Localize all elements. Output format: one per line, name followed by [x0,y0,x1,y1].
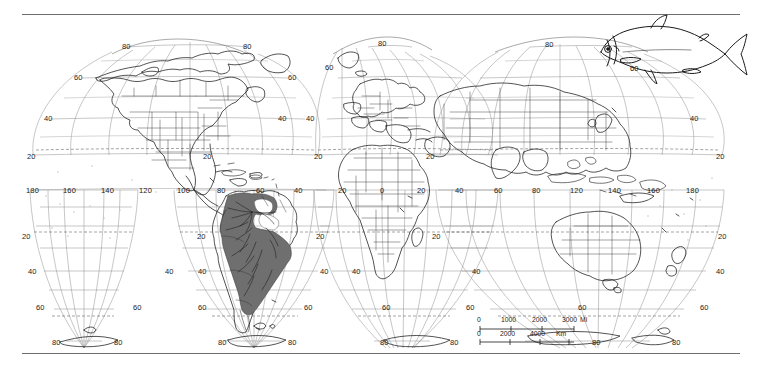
latitude-label: 80 [672,338,681,347]
latitude-label: 80 [592,338,601,347]
latitude-label: 80 [52,338,61,347]
latitude-label: 20 [718,232,727,241]
latitude-label: 80 [378,39,387,48]
latitude-label: 60 [630,64,639,73]
latitude-label: 80 [114,338,123,347]
longitude-label: 20 [417,186,426,195]
latitude-label: 80 [122,42,131,51]
latitude-label: 60 [466,303,475,312]
characin-fish-drawing [583,12,758,84]
longitude-label: 180 [26,186,39,195]
latitude-label: 20 [203,152,212,161]
latitude-label: 40 [278,114,287,123]
scale-km-tick-4000: 4000 [530,330,545,337]
latitude-label: 40 [306,114,315,123]
latitude-label: 40 [352,267,361,276]
latitude-label: 80 [380,338,389,347]
latitude-label: 60 [74,73,83,82]
world-distribution-map: 180 160 140 120 100 80 60 40 20 0 20 40 … [0,0,761,372]
longitude-label: 160 [63,186,76,195]
scale-mi-tick-3000: 3000 [562,316,577,323]
latitude-label: 20 [314,152,323,161]
scale-mi-unit: Mi [580,316,587,323]
latitude-label: 60 [288,73,297,82]
latitude-label: 60 [382,303,391,312]
map-page: 180 160 140 120 100 80 60 40 20 0 20 40 … [0,0,761,372]
latitude-label: 20 [432,232,441,241]
latitude-label: 80 [545,40,554,49]
scale-mi-tick-0: 0 [477,316,481,323]
scale-mi-tick-1000: 1000 [501,316,516,323]
latitude-label: 60 [700,303,709,312]
longitude-label: 20 [338,186,347,195]
latitude-label: 20 [27,152,36,161]
latitude-label: 40 [320,267,329,276]
longitude-label: 60 [256,186,265,195]
latitude-label: 80 [288,338,297,347]
longitude-label: 0 [380,186,384,195]
longitude-label: 80 [532,186,541,195]
latitude-label: 60 [36,303,45,312]
longitude-label: 120 [139,186,152,195]
longitude-label: 40 [455,186,464,195]
latitude-label: 60 [304,303,313,312]
latitude-label: 20 [22,232,31,241]
longitude-label: 180 [686,186,699,195]
map-scale-bar: 0 1000 2000 3000 Mi 0 2000 4000 Km [470,316,592,350]
latitude-label: 20 [316,232,325,241]
latitude-label: 40 [472,267,481,276]
latitude-label: 40 [28,267,37,276]
longitude-label: 60 [494,186,503,195]
latitude-label: 60 [578,303,587,312]
latitude-label: 40 [198,267,207,276]
latitude-label: 80 [450,338,459,347]
longitude-label: 100 [177,186,190,195]
longitude-label: 80 [217,186,226,195]
longitude-label: 40 [294,186,303,195]
latitude-label: 40 [44,114,53,123]
scale-km-unit: Km [556,330,566,337]
latitude-label: 60 [198,303,207,312]
latitude-label: 80 [218,338,227,347]
latitude-label: 80 [243,42,252,51]
latitude-label: 40 [716,267,725,276]
longitude-label: 140 [101,186,114,195]
latitude-label: 60 [133,303,142,312]
longitude-label: 160 [647,186,660,195]
scale-mi-tick-2000: 2000 [532,316,547,323]
latitude-label: 20 [716,152,725,161]
latitude-label: 60 [325,63,334,72]
scale-km-tick-0: 0 [477,330,481,337]
latitude-label: 40 [165,267,174,276]
longitude-label: 120 [570,186,583,195]
latitude-label: 40 [690,114,699,123]
latitude-label: 20 [426,152,435,161]
longitude-label: 140 [608,186,621,195]
scale-km-tick-2000: 2000 [500,330,515,337]
latitude-label: 20 [197,232,206,241]
